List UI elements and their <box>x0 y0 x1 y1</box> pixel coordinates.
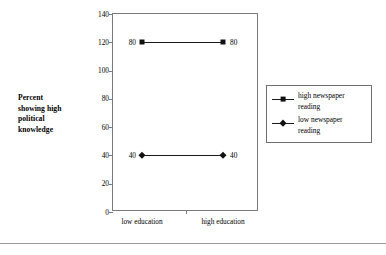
y-tick-mark-120 <box>109 42 113 43</box>
legend-item-low-newspaper-reading[interactable]: low newspaper reading <box>272 114 366 138</box>
y-tick-label-100: 100 <box>98 65 109 76</box>
y-tick-label-140: 140 <box>98 9 109 20</box>
y-tick-label-0: 0 <box>105 207 109 218</box>
x-tick-label-high-education: high education <box>201 217 244 227</box>
y-axis-title: Percent showing high political knowledge <box>18 93 102 135</box>
series-line-low-newspaper-reading <box>142 155 223 156</box>
legend-square-marker-icon <box>272 95 294 103</box>
y-tick-mark-100 <box>109 71 113 72</box>
legend-diamond-marker-icon <box>272 119 294 127</box>
page-divider <box>0 243 386 244</box>
y-axis-title-line-1: Percent <box>18 93 102 104</box>
y-axis-title-line-2: showing high <box>18 104 102 115</box>
y-tick-label-80: 80 <box>102 93 109 104</box>
data-point-low-newspaper-reading-low-education <box>139 152 145 158</box>
legend-item-high-newspaper-reading[interactable]: high newspaper reading <box>272 90 366 114</box>
y-tick-mark-0 <box>109 212 113 213</box>
data-label-high-newspaper-reading-low-education: 80 <box>129 38 136 47</box>
legend-label-line-2: reading <box>298 125 376 136</box>
data-point-low-newspaper-reading-high-education <box>220 152 226 158</box>
data-point-high-newspaper-reading-low-education <box>140 40 145 45</box>
legend-label-line-1: low newspaper <box>298 115 343 124</box>
y-tick-mark-140 <box>109 14 113 15</box>
legend-label-low-newspaper-reading: low newspaper reading <box>298 114 376 136</box>
y-tick-mark-40 <box>109 155 113 156</box>
line-chart-figure: Percent showing high political knowledge… <box>0 0 386 255</box>
legend-label-line-1: high newspaper <box>298 91 345 100</box>
y-tick-label-20: 20 <box>102 178 109 189</box>
y-tick-mark-80 <box>109 99 113 100</box>
data-label-low-newspaper-reading-high-education: 40 <box>230 151 237 160</box>
y-axis-title-line-4: knowledge <box>18 125 102 136</box>
y-tick-label-120: 120 <box>98 37 109 48</box>
legend-label-line-2: reading <box>298 101 376 112</box>
data-point-high-newspaper-reading-high-education <box>221 40 226 45</box>
x-tick-mark-mid <box>186 210 187 214</box>
data-label-low-newspaper-reading-low-education: 40 <box>129 151 136 160</box>
y-tick-label-40: 40 <box>102 150 109 161</box>
chart-legend: high newspaper reading low newspaper rea… <box>266 85 372 143</box>
y-tick-mark-20 <box>109 184 113 185</box>
x-tick-label-low-education: low education <box>121 217 162 227</box>
series-line-high-newspaper-reading <box>142 42 223 43</box>
y-tick-mark-60 <box>109 127 113 128</box>
data-label-high-newspaper-reading-high-education: 80 <box>230 38 237 47</box>
y-axis-title-line-3: political <box>18 114 102 125</box>
plot-area: 140 120 100 80 60 40 20 0 <box>112 13 258 211</box>
y-tick-label-60: 60 <box>102 122 109 133</box>
legend-label-high-newspaper-reading: high newspaper reading <box>298 90 376 112</box>
